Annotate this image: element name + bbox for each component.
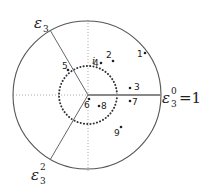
point-label: 1: [137, 49, 143, 59]
epsilon-subscript: 3: [43, 24, 49, 34]
numbered-points: 123456789: [62, 49, 146, 138]
point-2: 2: [106, 50, 114, 62]
point-9: 9: [114, 126, 122, 138]
epsilon-symbol: ε: [31, 166, 39, 184]
point-6: 6: [84, 98, 90, 110]
epsilon-subscript: 3: [40, 176, 46, 186]
label-epsilon1: ε 3: [34, 14, 49, 34]
epsilon-symbol: ε: [162, 89, 170, 107]
point-label: 5: [62, 61, 68, 71]
point-3: 3: [129, 82, 140, 92]
point-4: 4: [93, 58, 102, 68]
point-label: 9: [114, 128, 120, 138]
label-epsilon2: ε 3 2: [31, 162, 46, 186]
point-7: 7: [129, 97, 138, 107]
point-label: 6: [84, 100, 90, 110]
point-dot: [129, 100, 132, 103]
epsilon-symbol: ε: [34, 14, 42, 32]
epsilon-superscript: 0: [171, 86, 177, 96]
point-dot: [129, 87, 132, 90]
ray-epsilon2: [50, 95, 88, 160]
point-label: 8: [101, 101, 107, 111]
epsilon-superscript: 2: [40, 162, 46, 172]
point-dot: [98, 105, 101, 108]
point-8: 8: [98, 101, 107, 111]
point-label: 3: [134, 82, 140, 92]
point-label: 2: [106, 50, 112, 60]
point-label: 7: [132, 97, 138, 107]
equals-one: =1: [179, 89, 201, 107]
point-dot: [112, 60, 115, 63]
ray-epsilon1: [50, 30, 88, 95]
diagram-canvas: ε 3 ε 3 2 ε 3 0 =1 i 123456789: [0, 0, 211, 195]
point-dot: [100, 62, 103, 65]
point-dot: [120, 126, 123, 129]
complex-plane-figure: ε 3 ε 3 2 ε 3 0 =1 i 123456789: [0, 0, 211, 195]
point-dot: [144, 52, 147, 55]
label-epsilon0: ε 3 0 =1: [162, 86, 201, 109]
point-1: 1: [137, 49, 146, 59]
point-label: 4: [93, 58, 99, 68]
point-5: 5: [62, 61, 69, 71]
epsilon-subscript: 3: [171, 99, 177, 109]
